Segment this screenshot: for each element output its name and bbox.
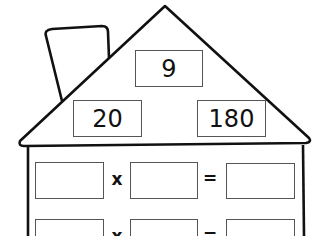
equation-1-product[interactable] xyxy=(226,163,295,199)
house-outline xyxy=(0,0,324,236)
equation-2-factor-a[interactable] xyxy=(35,219,104,236)
equation-2-product[interactable] xyxy=(226,219,295,236)
roof-box-left[interactable]: 20 xyxy=(73,100,142,137)
wall-right xyxy=(303,145,304,236)
equation-1-factor-b[interactable] xyxy=(130,162,198,199)
equation-1-equals-sign: = xyxy=(202,168,218,188)
equation-2-times-sign: x xyxy=(109,226,125,236)
equation-2-equals-sign: = xyxy=(202,225,218,236)
equation-1-times-sign: x xyxy=(109,169,125,189)
equation-1-factor-a[interactable] xyxy=(35,162,104,199)
equation-2-factor-b[interactable] xyxy=(130,219,198,236)
roof-box-right[interactable]: 180 xyxy=(197,100,266,137)
roof-box-top[interactable]: 9 xyxy=(135,50,203,87)
